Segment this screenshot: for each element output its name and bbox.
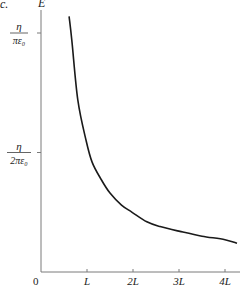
x-tick-label: L — [83, 275, 90, 287]
x-tick-label: 3L — [172, 275, 185, 287]
y-tick-numerator: η — [16, 140, 21, 152]
chart: L2L3L4L ηπε₀η2πε₀ c. E 0 — [0, 0, 243, 290]
y-tick-denominator: 2πε₀ — [10, 155, 28, 166]
y-ticks: ηπε₀η2πε₀ — [7, 20, 41, 166]
origin-label: 0 — [33, 275, 39, 287]
y-tick-denominator: πε₀ — [13, 35, 26, 46]
plot-area: L2L3L4L ηπε₀η2πε₀ c. E 0 — [0, 0, 243, 290]
y-tick-numerator: η — [16, 20, 21, 32]
field-curve — [69, 16, 237, 243]
x-tick-label: 4L — [219, 275, 231, 287]
panel-label: c. — [0, 0, 8, 11]
x-tick-label: 2L — [127, 275, 139, 287]
y-axis-label: E — [37, 0, 46, 10]
